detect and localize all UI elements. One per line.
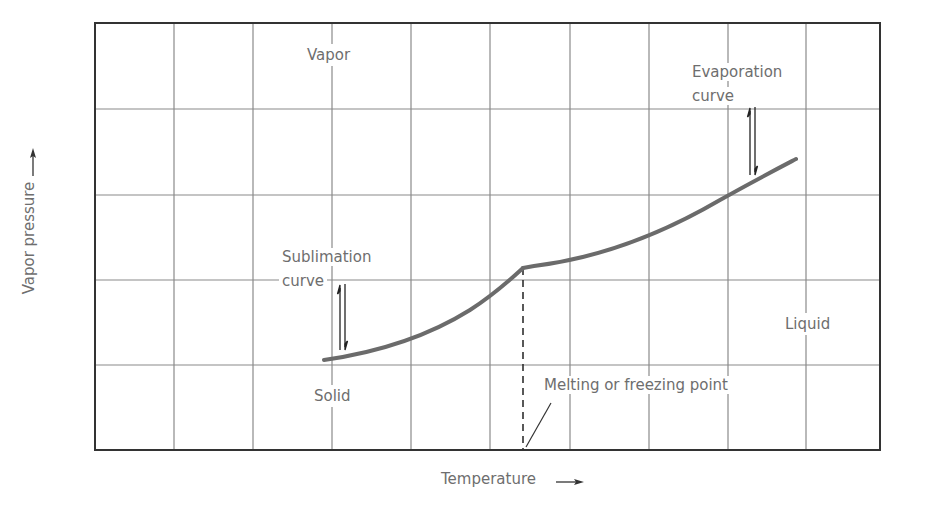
- evaporation-equilibrium-arrows-icon: [748, 107, 758, 175]
- diagram-canvas: [0, 0, 928, 511]
- sublimation-curve: [324, 268, 523, 360]
- region-label-liquid: Liquid: [783, 313, 832, 335]
- melting-point-leader-line: [526, 403, 551, 447]
- y-axis-arrow-icon: [30, 148, 36, 176]
- region-label-solid: Solid: [312, 385, 353, 407]
- plot-frame: [95, 23, 880, 450]
- x-axis-label: Temperature: [441, 470, 536, 488]
- grid-horizontal: [95, 109, 880, 365]
- evaporation-curve: [523, 159, 796, 268]
- sublimation-equilibrium-arrows-icon: [338, 284, 348, 350]
- x-axis-arrow-icon: [556, 479, 584, 485]
- evaporation-label-line2: curve: [689, 87, 737, 105]
- sublimation-label-line2: curve: [279, 272, 327, 290]
- phase-diagram: Vapor Liquid Solid Sublimation curve Eva…: [0, 0, 928, 511]
- melting-point-label: Melting or freezing point: [541, 376, 731, 394]
- sublimation-label-line1: Sublimation: [279, 248, 374, 266]
- region-label-vapor: Vapor: [305, 44, 352, 66]
- y-axis-label: Vapor pressure: [20, 182, 38, 295]
- evaporation-label-line1: Evaporation: [689, 63, 785, 81]
